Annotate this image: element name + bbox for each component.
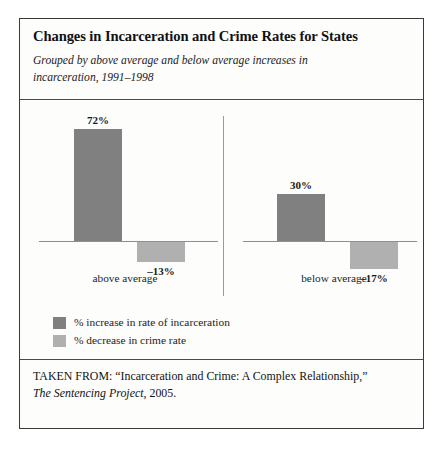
source-attribution: TAKEN FROM: “Incarceration and Crime: A … [20,360,423,403]
figure-subtitle: Grouped by above average and below avera… [33,53,363,86]
chart-panel-above-average: 72% –13% above average [25,102,224,310]
legend-swatch-icon-incarceration [53,317,66,329]
category-label-below-average: below average [274,272,394,284]
legend-item-incarceration: % increase in rate of incarceration [53,314,423,332]
source-line-1: TAKEN FROM: “Incarceration and Crime: A … [33,369,368,383]
zero-baseline-left [39,241,218,242]
bar-value-below-average-incarceration: 30% [263,179,339,191]
figure-title: Changes in Incarceration and Crime Rates… [33,28,410,45]
legend-item-crime: % decrease in crime rate [53,332,423,350]
bar-below-average-incarceration [277,194,325,241]
bar-value-above-average-incarceration: 72% [60,114,136,126]
bar-above-average-incarceration [74,129,122,241]
header-divider-rule [20,99,423,100]
chart-legend: % increase in rate of incarceration % de… [53,314,423,350]
figure-frame: Changes in Incarceration and Crime Rates… [19,18,424,429]
bar-above-average-crime [137,242,185,262]
source-year: , 2005. [144,386,177,400]
legend-label-incarceration: % increase in rate of incarceration [74,317,230,328]
bar-below-average-crime [350,242,398,269]
legend-swatch-icon-crime [53,335,66,347]
figure-header: Changes in Incarceration and Crime Rates… [20,19,423,93]
chart-panel-below-average: 30% –17% below average [229,102,423,310]
chart-plot-area: 72% –13% above average 30% –17% below av… [20,102,423,310]
source-publication-name: The Sentencing Project [33,386,144,400]
category-label-above-average: above average [65,272,185,284]
legend-label-crime: % decrease in crime rate [74,335,186,346]
